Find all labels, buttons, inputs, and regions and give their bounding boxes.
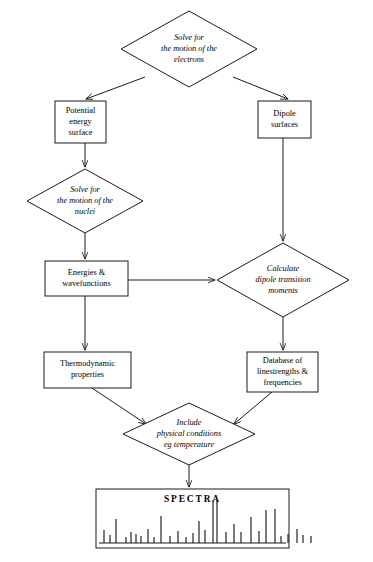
node-label-line: Dipole	[273, 109, 296, 118]
node-solve-electrons: Solve forthe motion of theelectrons	[121, 11, 257, 87]
node-label-line: Solve for	[174, 33, 204, 42]
flowchart-svg: Solve forthe motion of theelectronsPoten…	[0, 0, 373, 562]
connector-database-to-include	[234, 392, 272, 424]
node-label-line: dipole transition	[255, 275, 310, 284]
node-label-line: Database of	[263, 356, 303, 365]
node-label-line: frequencies	[263, 378, 301, 387]
node-label-line: moments	[268, 286, 298, 295]
node-label-line: the motion of the	[57, 196, 113, 205]
node-label-line: Potential	[66, 106, 96, 115]
node-label-line: Calculate	[267, 264, 300, 273]
connector-thermo-to-include	[92, 388, 146, 424]
node-label-line: properties	[71, 370, 104, 379]
node-thermodynamic-properties: Thermodynamicproperties	[44, 352, 131, 388]
connector-electrons-to-dipole	[233, 77, 288, 99]
node-label-line: electrons	[174, 55, 204, 64]
node-label-line: energy	[69, 117, 92, 126]
node-label-line: surfaces	[271, 120, 298, 129]
node-potential-energy-surface: Potentialenergysurface	[55, 101, 106, 143]
node-label-line: wavefunctions	[62, 279, 110, 288]
node-label-line: surface	[69, 128, 93, 137]
flowchart-canvas: Solve forthe motion of theelectronsPoten…	[0, 0, 373, 562]
node-label-line: Include	[176, 418, 202, 427]
node-include-physical-conditions: Includephysical conditionseg temperature	[123, 403, 255, 465]
node-label-line: physical conditions	[156, 429, 221, 438]
node-label-line: Energies &	[68, 268, 106, 277]
node-label-line: eg temperature	[164, 440, 214, 449]
node-label-line: linestrengths &	[257, 367, 308, 376]
node-label-line: nuclei	[75, 207, 96, 216]
node-database-linestrengths: Database oflinestrengths &frequencies	[247, 352, 318, 392]
node-dipole-surfaces: Dipolesurfaces	[258, 101, 311, 138]
node-label-line: Solve for	[70, 185, 100, 194]
node-energies-wavefunctions: Energies &wavefunctions	[45, 261, 128, 296]
connector-electrons-to-potential	[86, 77, 145, 99]
node-label-line: the motion of the	[161, 44, 217, 53]
node-calculate-dipole-moments: Calculatedipole transitionmoments	[217, 243, 349, 317]
node-label-line: Thermodynamic	[60, 359, 115, 368]
node-solve-nuclei: Solve forthe motion of thenuclei	[27, 169, 143, 233]
